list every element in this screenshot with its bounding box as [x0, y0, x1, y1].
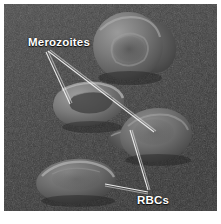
micrograph-figure: Merozoites RBCs [0, 0, 221, 224]
label-merozoites: Merozoites [28, 36, 90, 48]
label-rbcs: RBCs [137, 194, 169, 206]
leader-rbcs-a [130, 130, 150, 190]
micrograph-image: Merozoites RBCs [4, 4, 217, 211]
leader-rbcs-b [105, 184, 148, 194]
